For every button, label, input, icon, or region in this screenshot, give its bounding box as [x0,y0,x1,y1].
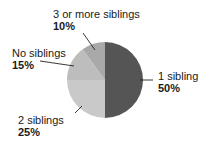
label-percent: 50% [158,82,198,94]
label-3-or-more-siblings: 3 or more siblings 10% [53,8,140,32]
label-name: 2 siblings [18,114,64,126]
label-1-sibling: 1 sibling 50% [158,70,198,94]
pie-slice-1-sibling [105,42,143,118]
label-percent: 15% [12,59,66,71]
label-name: 1 sibling [158,70,198,82]
label-percent: 25% [18,126,64,138]
label-name: 3 or more siblings [53,8,140,20]
label-no-siblings: No siblings 15% [12,47,66,71]
pie-slice-2-siblings [67,80,105,118]
label-name: No siblings [12,47,66,59]
label-2-siblings: 2 siblings 25% [18,114,64,138]
label-percent: 10% [53,20,140,32]
